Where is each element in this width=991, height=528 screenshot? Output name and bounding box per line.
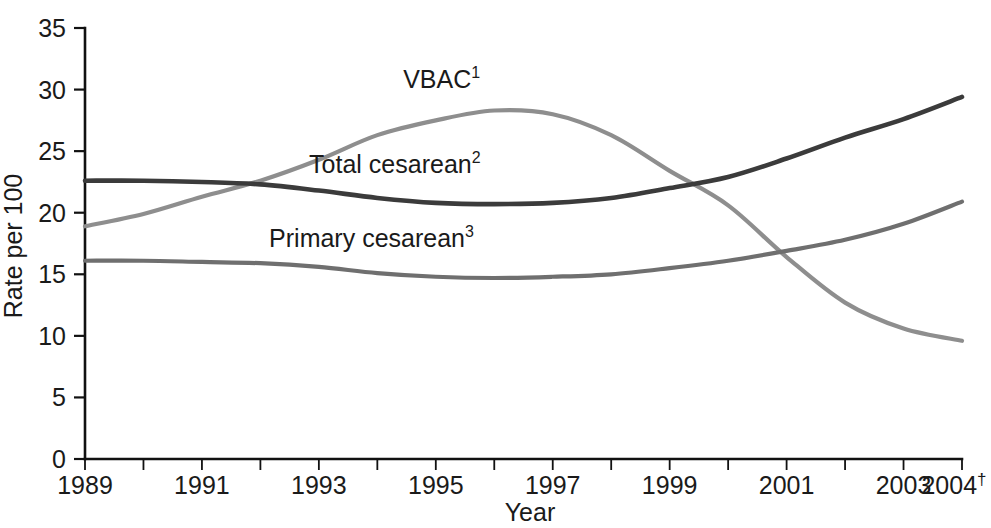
x-tick-label: 2004† xyxy=(921,470,986,499)
series-line-primary-cesarean xyxy=(85,202,962,278)
x-axis-title: Year xyxy=(505,498,556,526)
x-tick-label: 1999 xyxy=(642,471,698,499)
series-inline-labels: VBAC1Total cesarean2Primary cesarean3 xyxy=(269,64,481,252)
y-tick-label: 0 xyxy=(52,445,66,473)
series-label-primary-cesarean: Primary cesarean3 xyxy=(269,223,474,252)
x-tick-label: 1989 xyxy=(57,471,113,499)
x-tick-label: 1991 xyxy=(174,471,230,499)
y-tick-label: 5 xyxy=(52,383,66,411)
x-tick-label: 1997 xyxy=(525,471,581,499)
chart-container: 05101520253035 1989199119931995199719992… xyxy=(0,0,991,528)
data-series-group xyxy=(85,97,962,341)
series-line-total-cesarean xyxy=(85,97,962,204)
y-tick-label: 10 xyxy=(38,322,66,350)
line-chart: 05101520253035 1989199119931995199719992… xyxy=(0,0,991,528)
series-label-vbac: VBAC1 xyxy=(403,64,480,93)
y-axis-ticks xyxy=(74,28,85,459)
series-label-total-cesarean: Total cesarean2 xyxy=(309,149,481,178)
x-tick-label: 2001 xyxy=(759,471,815,499)
x-tick-label: 1993 xyxy=(291,471,347,499)
y-tick-label: 20 xyxy=(38,199,66,227)
y-tick-label: 25 xyxy=(38,137,66,165)
y-tick-label: 30 xyxy=(38,76,66,104)
y-tick-label: 35 xyxy=(38,14,66,42)
y-tick-label: 15 xyxy=(38,260,66,288)
y-axis-tick-labels: 05101520253035 xyxy=(38,14,66,473)
x-axis-tick-labels: 198919911993199519971999200120032004† xyxy=(57,470,986,499)
x-tick-label: 1995 xyxy=(408,471,464,499)
y-axis-title: Rate per 100 xyxy=(0,174,27,319)
x-axis-ticks xyxy=(85,459,962,470)
chart-axes xyxy=(74,28,962,470)
